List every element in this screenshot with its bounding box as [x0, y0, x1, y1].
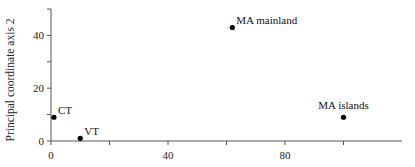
data-point — [51, 115, 56, 120]
y-tick-label: 0 — [39, 135, 45, 147]
x-tick-label: 40 — [163, 149, 175, 161]
data-point — [230, 25, 235, 30]
axes: 0408002040 — [33, 9, 402, 161]
point-label: MA islands — [318, 99, 368, 111]
y-axis-title: Principal coordinate axis 2 — [4, 18, 17, 141]
x-tick-label: 0 — [48, 149, 54, 161]
data-points: MA mainlandMA islandsCTVT — [51, 14, 368, 140]
point-label: CT — [58, 104, 72, 116]
point-label: MA mainland — [236, 14, 297, 26]
x-tick-label: 80 — [280, 149, 292, 161]
data-point — [341, 115, 346, 120]
data-point — [78, 136, 83, 141]
scatter-chart: 0408002040 MA mainlandMA islandsCTVT Pri… — [0, 0, 415, 167]
point-label: VT — [84, 125, 99, 137]
y-tick-label: 40 — [33, 29, 45, 41]
y-tick-label: 20 — [33, 82, 45, 94]
